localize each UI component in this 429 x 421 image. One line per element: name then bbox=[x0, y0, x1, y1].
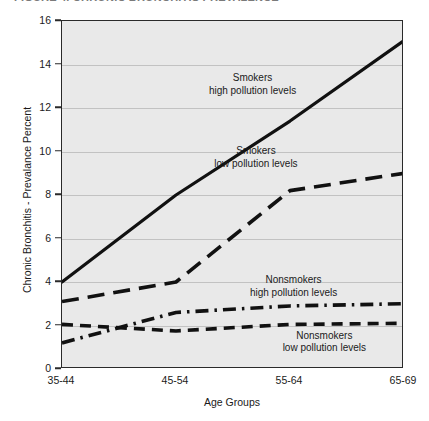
x-axis-tick-label: 35-44 bbox=[48, 374, 75, 386]
series-annotation-line2: high pollution levels bbox=[250, 287, 337, 300]
series-annotation-line1: Nonsmokers bbox=[296, 330, 352, 341]
x-axis: 35-4445-5455-6465-69 bbox=[0, 0, 429, 421]
series-annotation: Smokershigh pollution levels bbox=[209, 72, 296, 97]
series-annotation-line2: low pollution levels bbox=[214, 158, 297, 171]
x-axis-tick-label: 45-54 bbox=[162, 374, 189, 386]
series-annotation-line1: Nonsmokers bbox=[265, 274, 321, 285]
series-annotation-line1: Smokers bbox=[236, 145, 275, 156]
chronic-bronchitis-line-chart: 0246810121416 35-4445-5455-6465-69 Chron… bbox=[0, 0, 429, 421]
y-axis-title: Chronic Bronchitis - Prevalance Percent bbox=[21, 50, 33, 350]
x-axis-title: Age Groups bbox=[61, 396, 403, 408]
series-annotation-line2: low pollution levels bbox=[283, 342, 366, 355]
series-annotation-line2: high pollution levels bbox=[209, 85, 296, 98]
series-annotation-line1: Smokers bbox=[233, 72, 272, 83]
x-axis-tick-label: 65-69 bbox=[390, 374, 417, 386]
series-annotation: Nonsmokerslow pollution levels bbox=[283, 330, 366, 355]
series-annotation: Nonsmokershigh pollution levels bbox=[250, 274, 337, 299]
series-annotation: Smokerslow pollution levels bbox=[214, 145, 297, 170]
x-axis-tick-label: 55-64 bbox=[276, 374, 303, 386]
